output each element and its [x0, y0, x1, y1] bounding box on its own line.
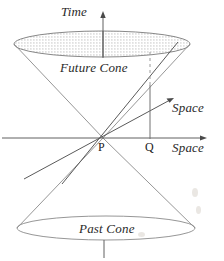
light-cone-diagram: Time Future Cone Past Cone Space Space P…	[0, 0, 224, 261]
future-cone-top-ellipse	[14, 31, 190, 57]
past-cone-left-edge	[17, 138, 103, 228]
past-cone-label: Past Cone	[79, 222, 135, 235]
q-point-label: Q	[145, 141, 154, 153]
future-cone-label: Future Cone	[60, 61, 128, 74]
paper-smudge	[138, 232, 145, 237]
paper-smudge	[192, 188, 198, 197]
arrow-up-icon	[100, 11, 105, 18]
future-cone-left-edge	[14, 44, 103, 138]
horizontal-space-axis-label: Space	[172, 141, 204, 154]
tilted-space-axis-label: Space	[172, 101, 204, 114]
origin-point-label: P	[98, 141, 105, 153]
time-axis-label: Time	[61, 5, 87, 18]
paper-smudge	[196, 206, 201, 214]
future-cone-right-edge	[103, 44, 190, 138]
